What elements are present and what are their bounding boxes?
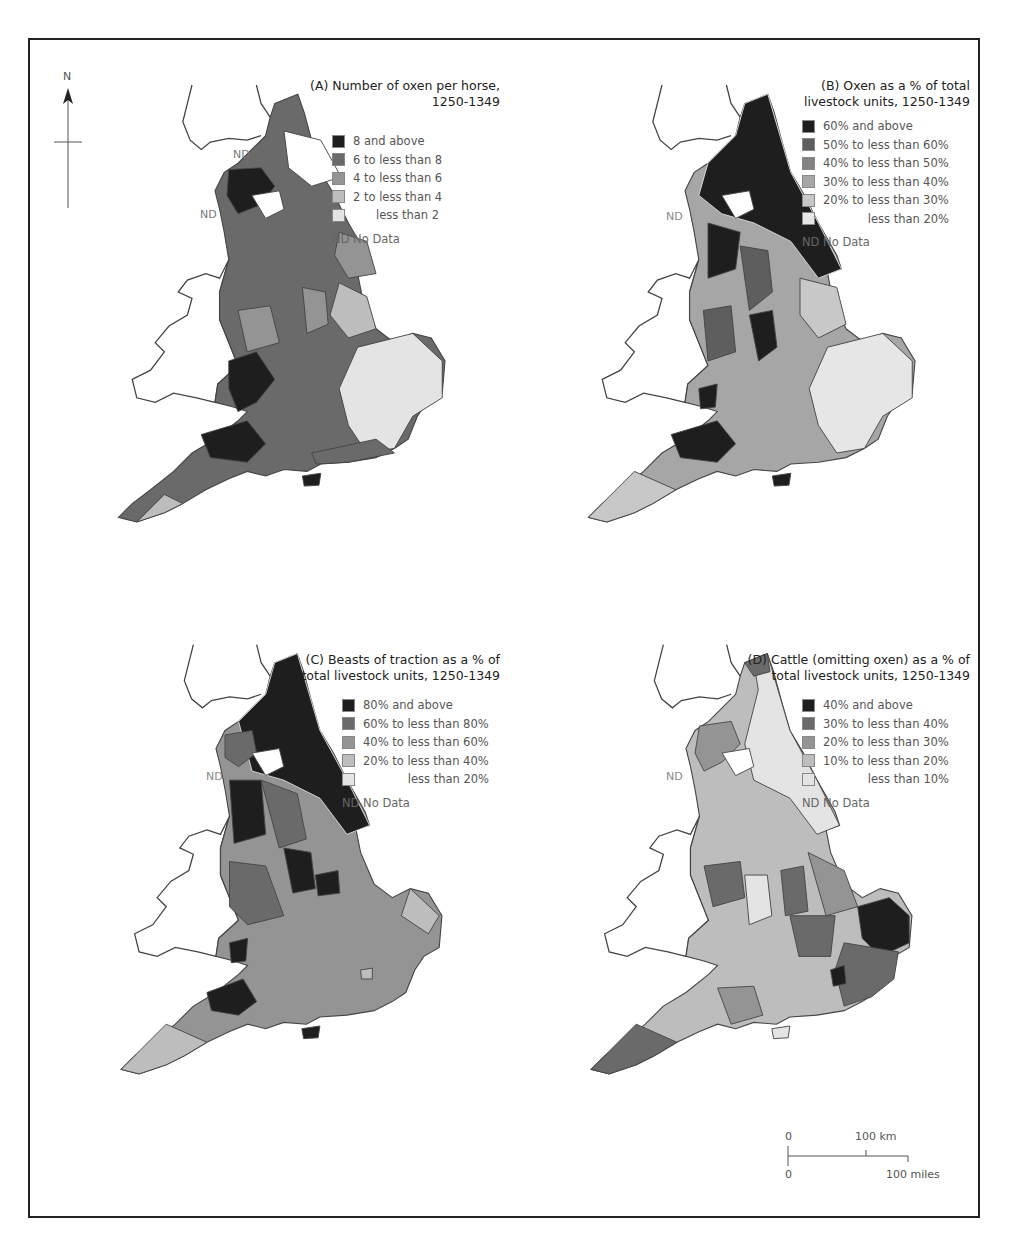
legend: 80% and above 60% to less than 80% 40% t… [342,696,489,810]
panel-title: (B) Oxen as a % of total livestock units… [750,78,970,110]
legend-item: 20% to less than 30% [802,733,949,752]
legend-item: 40% and above [802,696,949,715]
legend-label: 10% to less than 20% [823,754,949,768]
legend-item: 2 to less than 4 [332,188,442,207]
legend-swatch [342,736,355,749]
legend-swatch [802,120,815,133]
panel-title: (C) Beasts of traction as a % of total l… [250,652,500,684]
scale-bar-line [780,1144,960,1168]
legend-label: 80% and above [363,698,453,712]
legend-swatch [342,699,355,712]
legend-label: 20% to less than 30% [823,735,949,749]
legend-label: 20% to less than 30% [823,193,949,207]
title-line: (D) Cattle (omitting oxen) as a % of [700,652,970,668]
legend-item: less than 2 [332,206,442,225]
legend-swatch [332,209,345,222]
map-panel-c: ND (C) Beasts of traction as a % of tota… [40,620,500,1180]
nd-marker: ND [666,770,683,783]
legend-swatch [802,138,815,151]
legend-swatch [342,754,355,767]
legend-item: 4 to less than 6 [332,169,442,188]
legend-item: 40% to less than 60% [342,733,489,752]
legend: 8 and above 6 to less than 8 4 to less t… [332,132,442,246]
scale-zero-km: 0 [785,1130,792,1143]
legend-label: 4 to less than 6 [353,171,442,185]
legend-label: less than 10% [823,772,949,786]
legend-label: 60% and above [823,119,913,133]
legend-label: less than 2 [353,208,439,222]
scale-bar: 0 100 km 0 100 miles [780,1130,960,1190]
legend-swatch [802,194,815,207]
no-data-note: ND No Data [802,235,949,249]
legend-swatch [342,773,355,786]
no-data-note: ND No Data [332,232,442,246]
legend-label: 40% to less than 50% [823,156,949,170]
nd-marker: ND [206,770,223,783]
map-panel-b: ND (B) Oxen as a % of total livestock un… [500,60,980,630]
legend-swatch [332,190,345,203]
legend-item: 20% to less than 40% [342,752,489,771]
legend-label: 30% to less than 40% [823,717,949,731]
legend-swatch [802,754,815,767]
legend-label: 40% and above [823,698,913,712]
legend-swatch [332,135,345,148]
legend-label: 8 and above [353,134,425,148]
legend-label: 20% to less than 40% [363,754,489,768]
title-line: total livestock units, 1250-1349 [250,668,500,684]
legend-item: 60% and above [802,117,949,136]
legend-item: 10% to less than 20% [802,752,949,771]
legend-item: 50% to less than 60% [802,136,949,155]
legend-swatch [802,736,815,749]
legend-swatch [802,717,815,730]
nd-marker: ND [666,210,683,223]
title-line: livestock units, 1250-1349 [750,94,970,110]
legend-label: 40% to less than 60% [363,735,489,749]
map-panel-d: ND (D) Cattle (omitting oxen) as a % of … [500,620,980,1180]
no-data-note: ND No Data [342,796,489,810]
scale-zero-miles: 0 [785,1168,792,1181]
legend-swatch [802,157,815,170]
legend-item: 80% and above [342,696,489,715]
legend-label: 60% to less than 80% [363,717,489,731]
legend-label: 30% to less than 40% [823,175,949,189]
title-line: (A) Number of oxen per horse, [270,78,500,94]
legend-label: 50% to less than 60% [823,138,949,152]
legend-swatch [802,212,815,225]
legend-item: less than 20% [802,210,949,229]
panel-title: (D) Cattle (omitting oxen) as a % of tot… [700,652,970,684]
legend-item: 40% to less than 50% [802,154,949,173]
title-line: (C) Beasts of traction as a % of [250,652,500,668]
legend-label: 6 to less than 8 [353,153,442,167]
legend-item: 8 and above [332,132,442,151]
no-data-note: ND No Data [802,796,949,810]
legend-swatch [802,699,815,712]
title-line: 1250-1349 [270,94,500,110]
legend-item: 6 to less than 8 [332,151,442,170]
nd-marker: ND [200,208,217,221]
legend-item: 60% to less than 80% [342,715,489,734]
legend-item: 30% to less than 40% [802,715,949,734]
nd-marker: ND [233,148,250,161]
legend-item: less than 10% [802,770,949,789]
panel-title: (A) Number of oxen per horse, 1250-1349 [270,78,500,110]
legend-swatch [332,153,345,166]
legend: 40% and above 30% to less than 40% 20% t… [802,696,949,810]
legend-swatch [802,773,815,786]
legend-swatch [342,717,355,730]
scale-miles-label: 100 miles [886,1168,940,1181]
legend-swatch [332,172,345,185]
scale-km-label: 100 km [855,1130,897,1143]
legend-label: less than 20% [823,212,949,226]
legend: 60% and above 50% to less than 60% 40% t… [802,117,949,249]
legend-label: less than 20% [363,772,489,786]
legend-label: 2 to less than 4 [353,190,442,204]
title-line: (B) Oxen as a % of total [750,78,970,94]
title-line: total livestock units, 1250-1349 [700,668,970,684]
map-panel-a: ND ND (A) Number of oxen per horse, 1250… [40,60,500,630]
legend-item: 20% to less than 30% [802,191,949,210]
legend-swatch [802,175,815,188]
legend-item: less than 20% [342,770,489,789]
legend-item: 30% to less than 40% [802,173,949,192]
